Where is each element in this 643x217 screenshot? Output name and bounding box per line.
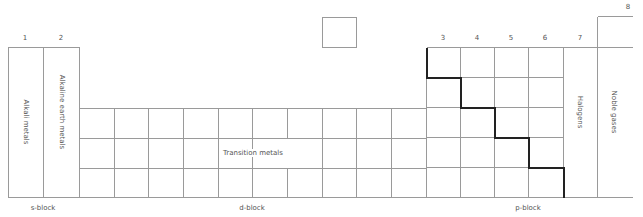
s-block-label: s-block <box>31 204 56 212</box>
d-block-label: d-block <box>239 204 265 212</box>
group-number-5: 5 <box>509 34 513 42</box>
group-number-7: 7 <box>578 34 582 42</box>
group-number-6: 6 <box>543 34 547 42</box>
p-block-grid <box>427 17 633 198</box>
group-number-3: 3 <box>441 34 445 42</box>
periodic-table-outline <box>0 0 643 217</box>
noble-gases-label: Noble gases <box>610 91 618 134</box>
legend-key-box <box>323 18 357 48</box>
group-number-1: 1 <box>23 34 27 42</box>
p-block-label: p-block <box>515 204 541 212</box>
alkali-metals-label: Alkali metals <box>22 100 30 145</box>
group-number-2: 2 <box>59 34 63 42</box>
halogens-label: Halogens <box>576 96 584 129</box>
transition-metals-label: Transition metals <box>221 149 285 157</box>
group-number-4: 4 <box>475 34 479 42</box>
d-block-grid <box>9 109 633 198</box>
alkaline-earth-metals-label: Alkaline earth metals <box>58 75 66 149</box>
group-number-8: 8 <box>626 3 630 11</box>
